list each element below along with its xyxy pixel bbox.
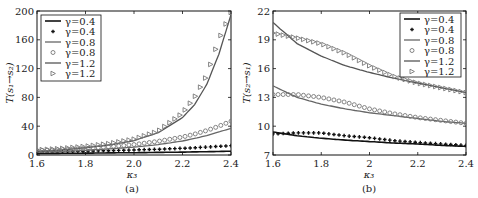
data-point [214,125,218,129]
legend-label: γ=0.4 [65,16,95,27]
data-point [183,134,187,138]
data-point [312,94,316,98]
data-point [137,142,141,146]
data-point [342,134,346,138]
x-tick-label: 2.2 [175,158,191,169]
data-point [153,148,157,152]
data-point [362,106,366,110]
data-point [378,68,382,73]
data-point [307,38,311,43]
y-tick-label: 10 [257,121,270,132]
y-tick-label: 22 [257,6,270,17]
data-point [199,146,203,150]
data-point [378,137,382,141]
y-tick-label: 0 [28,150,34,161]
data-point [229,144,233,148]
legend-label: γ=0.8 [65,37,95,48]
data-point [137,148,141,152]
data-point [209,145,213,149]
data-point [142,141,146,145]
y-tick-label: 40 [21,121,34,132]
data-point [357,104,361,108]
data-point [148,148,152,152]
data-point [132,143,136,147]
data-point [224,144,228,148]
data-point [127,143,131,147]
data-point [219,123,223,127]
data-point [158,139,162,143]
data-point [178,147,182,151]
data-point [373,108,377,112]
data-point [327,97,331,101]
data-point [327,132,331,136]
legend-label: γ=0.4 [424,24,454,35]
legend-label: γ=0.4 [65,26,95,37]
data-point [337,99,341,103]
data-point [219,144,223,148]
legend-label: γ=1.2 [424,56,454,67]
data-point [312,40,316,45]
data-point [193,132,197,136]
x-tick-label: 1.8 [313,158,329,169]
data-point [142,148,146,152]
data-point [342,50,346,55]
data-point [147,141,151,145]
x-tick-label: 2.4 [458,158,474,169]
data-point [188,133,192,137]
data-point [322,96,326,100]
data-point [188,101,192,106]
panel-b-caption: (b) [362,183,376,194]
x-tick-label: 2 [366,158,372,169]
data-point [301,93,305,97]
data-point [383,110,387,114]
panel-b-x-axis-label: κ₃ [363,169,375,180]
legend-label: γ=0.4 [424,14,454,25]
data-point [117,144,121,148]
data-point [312,131,316,135]
data-point [358,135,362,139]
data-point [297,131,301,135]
y-tick-label: 16 [257,63,270,74]
data-point [301,37,305,42]
data-point [147,132,151,137]
data-point [204,145,208,149]
panel-b-legend: γ=0.4γ=0.4γ=0.8γ=0.8γ=1.2γ=1.2 [400,13,461,77]
data-point [368,136,372,140]
data-point [163,147,167,151]
panel-a-caption: (a) [125,183,139,194]
data-point [327,44,331,49]
data-point [137,135,141,140]
data-point [352,56,356,61]
x-tick-label: 2.4 [223,158,239,169]
data-point [193,146,197,150]
data-point [393,139,397,143]
legend-label: γ=1.2 [424,66,454,77]
data-point [332,46,336,51]
data-point [352,135,356,139]
data-point [203,129,207,133]
data-point [347,53,351,58]
data-point [322,42,326,47]
data-point [322,131,326,135]
data-point [337,133,341,137]
panel-a-legend: γ=0.4γ=0.4γ=0.8γ=0.8γ=1.2γ=1.2 [41,15,101,81]
data-point [152,130,156,135]
data-point [198,85,202,90]
series-line [273,86,466,123]
data-point [168,137,172,141]
data-point [373,137,377,141]
data-point [296,36,300,41]
y-tick-label: 7 [264,150,270,161]
data-point [368,107,372,111]
x-tick-label: 2.0 [126,158,142,169]
y-tick-label: 200 [15,6,34,17]
data-point [209,62,213,67]
panel-a-y-axis-label: T(s₁→s₂) [4,62,15,103]
data-point [127,148,131,152]
data-point [214,145,218,149]
data-point [122,143,126,147]
data-point [398,139,402,143]
data-point [193,94,197,99]
data-point [173,147,177,151]
data-point [332,133,336,137]
